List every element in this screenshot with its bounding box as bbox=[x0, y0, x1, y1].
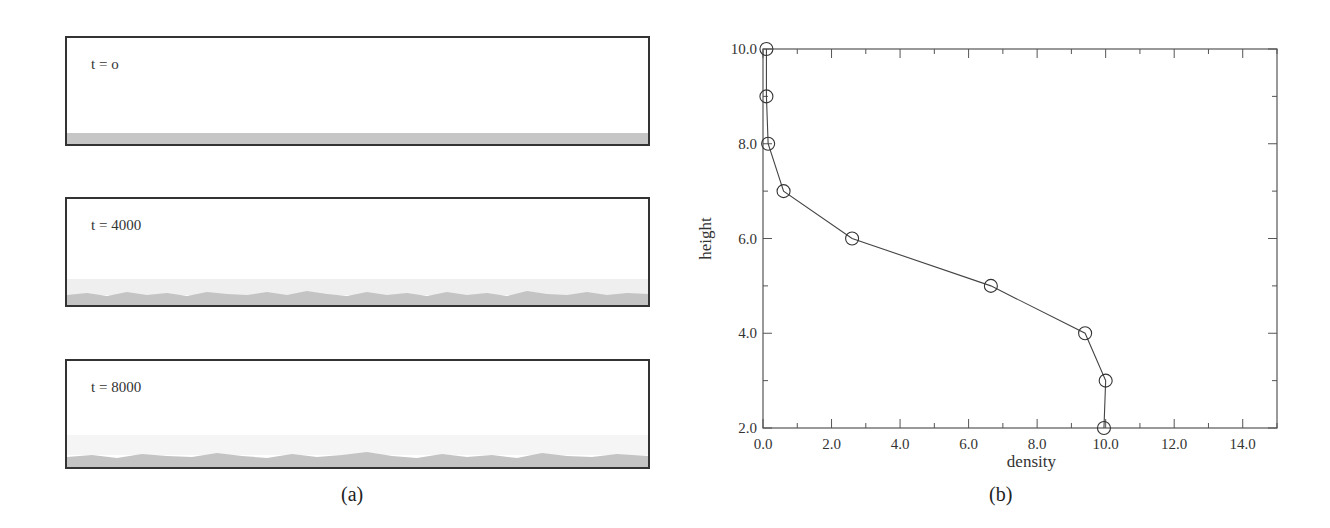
x-axis-label: density bbox=[1007, 452, 1057, 471]
x-tick-label: 2.0 bbox=[822, 436, 841, 452]
data-line bbox=[766, 49, 1105, 428]
x-tick-label: 12.0 bbox=[1161, 436, 1187, 452]
x-tick-label: 6.0 bbox=[959, 436, 978, 452]
x-tick-label: 14.0 bbox=[1230, 436, 1256, 452]
chart-axes: 0.02.04.06.08.010.012.014.02.04.06.08.01… bbox=[696, 41, 1277, 471]
density-height-chart: 0.02.04.06.08.010.012.014.02.04.06.08.01… bbox=[0, 0, 1330, 528]
x-tick-label: 4.0 bbox=[891, 436, 910, 452]
y-tick-label: 8.0 bbox=[738, 136, 757, 152]
y-tick-label: 10.0 bbox=[731, 41, 757, 57]
y-tick-label: 4.0 bbox=[738, 325, 757, 341]
y-axis-label: height bbox=[696, 217, 715, 260]
y-tick-label: 6.0 bbox=[738, 231, 757, 247]
figure-label-b: (b) bbox=[989, 483, 1012, 506]
chart-series bbox=[760, 43, 1112, 435]
x-tick-label: 10.0 bbox=[1093, 436, 1119, 452]
x-tick-label: 8.0 bbox=[1028, 436, 1047, 452]
x-tick-label: 0.0 bbox=[754, 436, 773, 452]
y-tick-label: 2.0 bbox=[738, 420, 757, 436]
